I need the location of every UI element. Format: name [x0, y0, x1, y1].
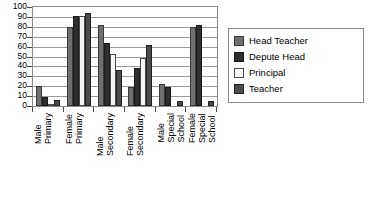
x-axis-labels: MalePrimaryFemalePrimaryMaleSecondaryFem… [32, 113, 222, 201]
x-axis-tick-mark [216, 107, 217, 112]
legend-swatch-icon [234, 36, 244, 46]
bar [208, 101, 214, 106]
bar [146, 45, 152, 106]
bar-group [190, 7, 214, 106]
legend-item[interactable]: Head Teacher [234, 33, 358, 49]
bar-chart: 1009080706050403020100 MalePrimaryFemale… [0, 0, 370, 204]
x-axis-tick-mark [32, 107, 33, 112]
x-axis-label-line: Male [33, 113, 43, 144]
y-axis-tick-label: 60 [18, 42, 27, 50]
y-axis-tick-label: 0 [22, 101, 27, 109]
y-axis-tick-label: 10 [18, 91, 27, 99]
bar [196, 25, 202, 106]
x-axis-label-line: Primary [74, 113, 84, 144]
bar [177, 101, 183, 106]
y-axis-tick-label: 90 [18, 12, 27, 20]
x-axis-label-line: Female [187, 113, 197, 143]
y-axis-tick-label: 40 [18, 61, 27, 69]
y-axis-tick-label: 50 [18, 52, 27, 60]
x-axis-label-line: Male [95, 113, 105, 156]
x-axis-group-label: FemalePrimary [64, 113, 84, 144]
bar-group [128, 7, 152, 106]
y-axis-tick-label: 20 [18, 81, 27, 89]
bar-group [159, 7, 183, 106]
y-axis-tick-label: 70 [18, 32, 27, 40]
bar [165, 87, 171, 106]
x-axis-group-label: MaleSpecialSchool [156, 113, 186, 143]
y-axis-tick-label: 30 [18, 71, 27, 79]
legend-label: Head Teacher [249, 36, 308, 46]
x-axis-tick-mark [155, 107, 156, 112]
x-axis-label-line: Secondary [105, 113, 115, 156]
x-axis-tick-mark [185, 107, 186, 112]
x-axis-group-label: FemaleSecondary [125, 113, 145, 156]
legend-swatch-icon [234, 68, 244, 78]
legend-item[interactable]: Teacher [234, 81, 358, 97]
bar [54, 100, 60, 106]
y-axis: 1009080706050403020100 [0, 0, 32, 113]
bar-group [36, 7, 60, 106]
x-axis-group-label: MalePrimary [33, 113, 53, 144]
bar [116, 70, 122, 106]
x-axis-tick-mark [124, 107, 125, 112]
bars-layer [33, 7, 217, 106]
legend-label: Teacher [249, 84, 283, 94]
bar-group [67, 7, 91, 106]
legend-label: Principal [249, 68, 285, 78]
x-axis-label-line: Female [64, 113, 74, 144]
x-axis-label-line: School [207, 113, 217, 143]
x-axis-tick-mark [63, 107, 64, 112]
legend-swatch-icon [234, 84, 244, 94]
x-axis-group-label: FemaleSpecialSchool [187, 113, 217, 143]
x-axis-ticks [32, 107, 218, 112]
y-axis-tick-label: 80 [18, 22, 27, 30]
x-axis-label-line: Special [197, 113, 207, 143]
x-axis-label-line: Female [125, 113, 135, 156]
x-axis-label-line: Primary [43, 113, 53, 144]
x-axis-label-line: School [176, 113, 186, 143]
bar [85, 13, 91, 106]
x-axis-label-line: Secondary [135, 113, 145, 156]
legend-label: Depute Head [249, 52, 305, 62]
x-axis-group-label: MaleSecondary [95, 113, 115, 156]
legend-item[interactable]: Depute Head [234, 49, 358, 65]
x-axis-label-line: Male [156, 113, 166, 143]
y-axis-tick-label: 100 [13, 2, 27, 10]
x-axis-label-line: Special [166, 113, 176, 143]
bar-group [98, 7, 122, 106]
legend-item[interactable]: Principal [234, 65, 358, 81]
legend: Head TeacherDepute HeadPrincipalTeacher [228, 28, 364, 103]
legend-swatch-icon [234, 52, 244, 62]
x-axis-tick-mark [93, 107, 94, 112]
